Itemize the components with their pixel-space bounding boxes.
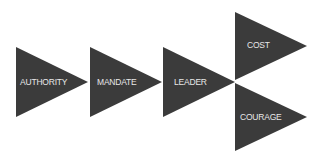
node-courage: COURAGE	[235, 83, 308, 153]
node-label: LEADER	[174, 77, 207, 87]
node-mandate: MANDATE	[90, 47, 163, 118]
node-cost: COST	[235, 12, 308, 82]
node-label: COST	[247, 40, 270, 50]
arrow-flow-diagram: AUTHORITY MANDATE LEADER COST COURAGE	[0, 0, 325, 161]
node-leader: LEADER	[163, 47, 236, 118]
triangle-arrow-icon	[235, 12, 308, 82]
node-authority: AUTHORITY	[16, 47, 89, 118]
node-label: AUTHORITY	[20, 77, 67, 87]
node-label: COURAGE	[240, 112, 282, 122]
node-label: MANDATE	[97, 77, 137, 87]
